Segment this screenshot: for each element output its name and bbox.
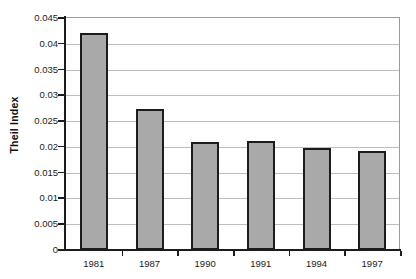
gridline [66,147,399,148]
x-axis-tick-mark [344,251,346,256]
y-axis-title-label: Theil Index [8,96,20,153]
bar [191,142,219,250]
gridline [66,121,399,122]
gridline [66,95,399,96]
gridline [66,44,399,45]
y-axis-tick-label: 0.02 [40,140,59,151]
y-axis-tick-labels: 00.0050.010.0150.020.0250.030.0350.040.0… [22,17,62,249]
y-axis-tick-label: 0.03 [40,89,59,100]
gridline [66,198,399,199]
x-axis-tick-label: 1987 [139,258,160,269]
x-axis-tick-label: 1981 [83,258,104,269]
x-axis-tick-mark [289,251,291,256]
y-axis-tick-mark [58,146,64,148]
y-axis-tick-label: 0.045 [34,12,58,23]
gridline [66,70,399,71]
x-axis-tick-label: 1994 [306,258,327,269]
y-axis-tick-mark [58,94,64,96]
y-axis-tick-label: 0.035 [34,63,58,74]
bar [247,141,275,250]
y-axis-tick-mark [58,43,64,45]
y-axis-tick-label: 0.025 [34,115,58,126]
y-axis-tick-label: 0.04 [40,37,59,48]
bar [358,151,386,250]
x-axis-tick-mark [177,251,179,256]
bar-chart: Theil Index 00.0050.010.0150.020.0250.03… [0,0,416,279]
y-axis-tick-label: 0.005 [34,218,58,229]
y-axis-tick-label: 0.01 [40,192,59,203]
y-axis-tick-mark [58,197,64,199]
plot-area [66,17,400,249]
y-axis-tick-mark [58,172,64,174]
y-axis-line [64,16,66,251]
x-axis-tick-label: 1997 [362,258,383,269]
y-axis-tick-label: 0.015 [34,166,58,177]
x-axis-tick-label: 1991 [250,258,271,269]
bar [303,148,331,250]
x-axis-tick-label: 1990 [195,258,216,269]
y-axis-tick-mark [58,17,64,19]
gridline [66,173,399,174]
x-axis-tick-mark [233,251,235,256]
bar [136,109,164,250]
y-axis-tick-mark [58,223,64,225]
x-axis-tick-mark [122,251,124,256]
x-axis-tick-mark [400,251,402,256]
y-axis-tick-mark [58,69,64,71]
bar [80,33,108,250]
y-axis-tick-mark [58,120,64,122]
y-axis-tick-mark [58,249,64,251]
gridline [66,224,399,225]
